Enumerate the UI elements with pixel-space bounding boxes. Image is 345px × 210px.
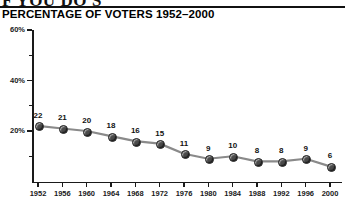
data-point-1988[interactable] (254, 158, 263, 167)
data-label-1972: 15 (145, 129, 175, 138)
data-point-1992[interactable] (278, 158, 287, 167)
data-point-1952[interactable] (35, 122, 44, 131)
data-point-1968[interactable] (132, 138, 141, 147)
data-point-1984[interactable] (229, 153, 238, 162)
data-point-2000[interactable] (327, 163, 336, 172)
series-line (0, 0, 345, 210)
plot-area: 20%40%60% 195219561960196419681972197619… (0, 0, 345, 210)
data-point-1956[interactable] (59, 125, 68, 134)
data-point-1976[interactable] (181, 150, 190, 159)
data-label-2000: 6 (315, 151, 345, 160)
chart-page: F YOU DO'S PERCENTAGE OF VOTERS 1952–200… (0, 0, 345, 210)
data-point-1964[interactable] (108, 133, 117, 142)
data-point-1960[interactable] (83, 128, 92, 137)
